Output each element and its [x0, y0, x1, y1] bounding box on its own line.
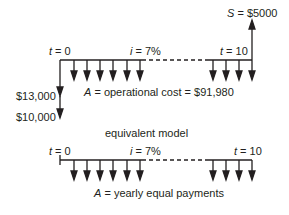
salvage-arrow	[249, 20, 255, 60]
initial-cost-arrows	[57, 60, 63, 118]
cost-13000-label: $13,000	[16, 90, 56, 102]
bottom-rate-label: i = 7%	[130, 145, 161, 157]
caption-equivalent-model: equivalent model	[105, 127, 188, 139]
salvage-label: S = $5000	[227, 7, 277, 19]
bottom-annuity-label: A = yearly equal payments	[94, 187, 224, 199]
top-annuity-arrows	[71, 60, 255, 80]
cost-10000-label: $10,000	[16, 111, 56, 123]
top-annuity-label: A = operational cost = $91,980	[84, 86, 234, 98]
cash-flow-diagram	[0, 0, 289, 215]
bottom-annuity-arrows	[71, 160, 255, 180]
bottom-start-label: t = 0	[49, 145, 71, 157]
top-start-label: t = 0	[49, 45, 71, 57]
top-rate-label: i = 7%	[130, 45, 161, 57]
top-end-label: t = 10	[220, 45, 248, 57]
bottom-end-label: t = 10	[234, 145, 262, 157]
